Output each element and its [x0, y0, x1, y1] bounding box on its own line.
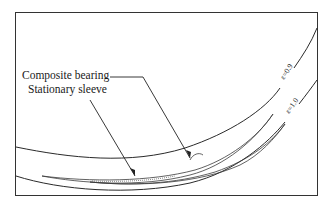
stationary-sleeve-label: Stationary sleeve [28, 83, 107, 96]
composite-bearing-label: Composite bearing [22, 69, 109, 82]
figure-frame [16, 13, 318, 196]
bearing-diagram: ε=0.9 ε=1.0 Composite bearing Stationary… [0, 0, 334, 207]
diagram-canvas: ε=0.9 ε=1.0 Composite bearing Stationary… [0, 0, 334, 207]
